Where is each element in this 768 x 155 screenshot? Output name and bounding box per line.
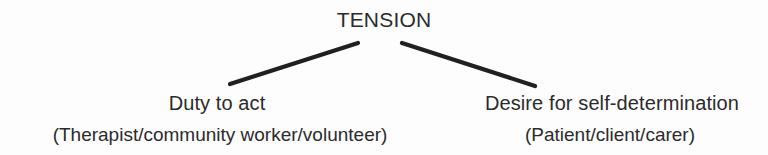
left-connector-line (230, 43, 358, 84)
root-node-label: TENSION (0, 9, 768, 30)
right-branch-label: Desire for self-determination (466, 93, 758, 113)
right-connector-line (402, 43, 535, 86)
tension-diagram: TENSION Duty to act Desire for self-dete… (0, 0, 768, 155)
left-branch-sublabel: (Therapist/community worker/volunteer) (0, 125, 440, 144)
right-branch-sublabel: (Patient/client/carer) (462, 125, 758, 144)
left-branch-label: Duty to act (0, 93, 434, 113)
